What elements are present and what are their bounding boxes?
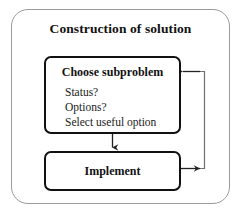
detail-line-status: Status? [65,85,156,100]
node-choose-subproblem-heading: Choose subproblem [46,65,179,80]
node-choose-subproblem[interactable]: Choose subproblem Status? Options? Selec… [44,56,181,134]
detail-line-options: Options? [65,100,156,115]
node-implement[interactable]: Implement [44,151,181,191]
detail-line-select-useful-option: Select useful option [65,115,156,130]
page-title: Construction of solution [11,21,230,37]
node-implement-heading: Implement [46,164,179,179]
node-choose-subproblem-details: Status? Options? Select useful option [65,85,156,130]
flowchart-diagram: Construction of solution Choose subprobl [0,0,244,215]
